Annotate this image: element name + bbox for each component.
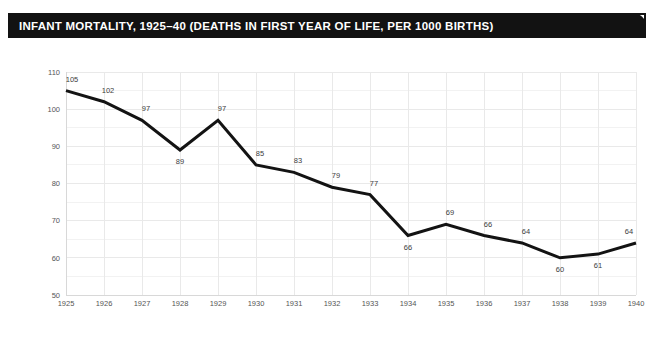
data-point-label: 66 bbox=[404, 243, 412, 252]
data-point-label: 69 bbox=[446, 208, 454, 217]
x-tick-label: 1938 bbox=[552, 299, 569, 308]
x-tick-label: 1939 bbox=[590, 299, 607, 308]
data-point-label: 83 bbox=[294, 156, 302, 165]
data-point-labels: 1051029789978583797766696664606164 bbox=[66, 75, 633, 274]
x-tick-label: 1926 bbox=[96, 299, 113, 308]
x-tick-label: 1927 bbox=[134, 299, 151, 308]
x-tick-label: 1933 bbox=[362, 299, 379, 308]
data-point-label: 64 bbox=[522, 227, 530, 236]
chart-title: INFANT MORTALITY, 1925–40 (DEATHS IN FIR… bbox=[8, 20, 494, 32]
data-point-label: 60 bbox=[556, 265, 564, 274]
y-tick-label: 90 bbox=[52, 142, 60, 151]
x-axis-tick-labels: 1925192619271928192919301931193219331934… bbox=[58, 299, 645, 308]
data-point-label: 64 bbox=[625, 227, 633, 236]
chart-figure: INFANT MORTALITY, 1925–40 (DEATHS IN FIR… bbox=[0, 0, 654, 341]
gridlines bbox=[66, 72, 636, 295]
data-point-label: 97 bbox=[142, 104, 150, 113]
y-axis-tick-labels: 5060708090100110 bbox=[47, 68, 60, 300]
x-tick-label: 1932 bbox=[324, 299, 341, 308]
data-series bbox=[66, 91, 636, 258]
y-tick-label: 100 bbox=[47, 105, 60, 114]
x-tick-label: 1937 bbox=[514, 299, 531, 308]
y-tick-label: 70 bbox=[52, 216, 60, 225]
x-tick-label: 1929 bbox=[210, 299, 227, 308]
data-point-label: 85 bbox=[256, 149, 264, 158]
data-point-label: 97 bbox=[218, 104, 226, 113]
x-tick-label: 1940 bbox=[628, 299, 645, 308]
plot-area: 5060708090100110 19251926192719281929193… bbox=[8, 38, 646, 328]
x-tick-label: 1935 bbox=[438, 299, 455, 308]
x-tick-label: 1928 bbox=[172, 299, 189, 308]
data-point-label: 105 bbox=[66, 75, 79, 84]
y-tick-label: 80 bbox=[52, 179, 60, 188]
data-point-label: 79 bbox=[332, 171, 340, 180]
x-tick-label: 1936 bbox=[476, 299, 493, 308]
x-tick-label: 1930 bbox=[248, 299, 265, 308]
data-point-label: 61 bbox=[594, 261, 602, 270]
line-chart-svg: 5060708090100110 19251926192719281929193… bbox=[8, 38, 646, 328]
x-tick-label: 1931 bbox=[286, 299, 303, 308]
y-tick-label: 60 bbox=[52, 254, 60, 263]
x-tick-label: 1934 bbox=[400, 299, 417, 308]
data-point-label: 77 bbox=[370, 179, 378, 188]
data-point-label: 66 bbox=[484, 220, 492, 229]
data-point-label: 102 bbox=[102, 86, 115, 95]
series-line-infant-mortality bbox=[66, 91, 636, 258]
chart-title-bar: INFANT MORTALITY, 1925–40 (DEATHS IN FIR… bbox=[8, 13, 646, 38]
data-point-label: 89 bbox=[176, 157, 184, 166]
y-tick-label: 110 bbox=[48, 68, 60, 77]
x-tick-label: 1925 bbox=[58, 299, 75, 308]
